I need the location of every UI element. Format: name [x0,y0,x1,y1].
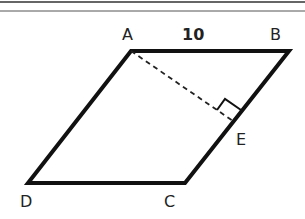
vertex-label-e: E [236,130,246,149]
parallelogram-abcd [28,51,289,183]
vertex-label-a: A [122,25,133,44]
vertex-label-c: C [164,192,175,211]
diagram-canvas: A 10 B E D C [0,0,305,219]
side-length-label: 10 [182,25,204,44]
vertex-label-d: D [20,192,32,211]
parallelogram-figure: A 10 B E D C [0,0,305,219]
vertex-label-b: B [270,25,281,44]
right-angle-marker [217,99,241,110]
